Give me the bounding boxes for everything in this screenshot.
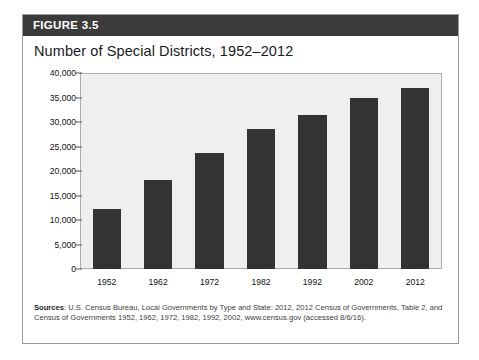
y-tick-label: 5,000 xyxy=(54,240,76,250)
source-note: Sources: U.S. Census Bureau, Local Gover… xyxy=(34,303,448,324)
x-tick-label: 1982 xyxy=(235,277,286,287)
bar-2012 xyxy=(401,88,429,269)
bar-slot xyxy=(81,74,132,269)
x-tick-label: 1962 xyxy=(132,277,183,287)
x-axis: 1952196219721982199220022012 xyxy=(81,273,441,287)
bar-chart: 05,00010,00015,00020,00025,00030,00035,0… xyxy=(34,73,448,295)
y-tick-label: 35,000 xyxy=(50,93,76,103)
bar-slot xyxy=(287,74,338,269)
y-tick-label: 20,000 xyxy=(50,166,76,176)
x-tick-label: 1952 xyxy=(81,277,132,287)
y-tick-label: 30,000 xyxy=(50,117,76,127)
x-tick-label: 1992 xyxy=(287,277,338,287)
bar-slot xyxy=(132,74,183,269)
bar-1962 xyxy=(144,180,172,269)
bars-container xyxy=(81,74,441,269)
y-tick-label: 25,000 xyxy=(50,142,76,152)
figure-card: FIGURE 3.5 Number of Special Districts, … xyxy=(22,14,459,344)
y-tick-label: 10,000 xyxy=(50,215,76,225)
bar-2002 xyxy=(350,98,378,269)
figure-banner: FIGURE 3.5 xyxy=(23,15,458,36)
figure-title: Number of Special Districts, 1952–2012 xyxy=(34,43,293,59)
bar-slot xyxy=(338,74,389,269)
y-axis: 05,00010,00015,00020,00025,00030,00035,0… xyxy=(34,73,76,269)
y-tick-label: 40,000 xyxy=(50,68,76,78)
bar-slot xyxy=(184,74,235,269)
bar-slot xyxy=(235,74,286,269)
bar-slot xyxy=(390,74,441,269)
bar-1992 xyxy=(298,115,326,269)
y-tick-label: 15,000 xyxy=(50,191,76,201)
figure-number-label: FIGURE 3.5 xyxy=(33,19,99,31)
bar-1952 xyxy=(93,209,121,269)
x-tick-label: 1972 xyxy=(184,277,235,287)
source-label: Sources xyxy=(34,303,64,312)
x-tick-label: 2002 xyxy=(338,277,389,287)
x-tick-label: 2012 xyxy=(390,277,441,287)
bar-1982 xyxy=(247,129,275,269)
source-text: : U.S. Census Bureau, Local Governments … xyxy=(34,303,442,322)
bar-1972 xyxy=(195,153,223,270)
